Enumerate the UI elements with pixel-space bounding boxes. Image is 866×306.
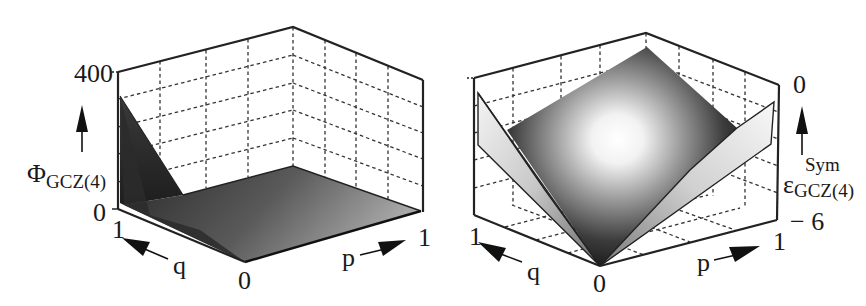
left-z-label-symbol: Φ xyxy=(27,159,46,188)
right-q-tick-end: 1 xyxy=(469,222,482,251)
right-q-label: q xyxy=(527,257,540,286)
left-plot: 400 0 ΦGCZ(4) 1 q 0 p 1 xyxy=(27,27,431,295)
right-z-label-symbol: ε xyxy=(783,170,794,199)
left-p-tick-end: 1 xyxy=(418,223,431,252)
left-p-arrow-icon xyxy=(360,240,406,256)
right-plot: 0 − 6 Sym εGCZ(4) 1 q 0 p 1 xyxy=(467,33,854,298)
left-q-label: q xyxy=(173,251,186,280)
right-z-tick-top: 0 xyxy=(793,70,806,99)
right-p-tick-end: 1 xyxy=(773,227,786,256)
right-p-label: p xyxy=(697,248,710,277)
left-p-label: p xyxy=(342,243,355,272)
right-q-arrow-icon xyxy=(478,242,522,262)
left-surface xyxy=(120,96,421,262)
left-q-arrow-icon xyxy=(122,238,168,259)
right-z-label-superscript: Sym xyxy=(805,154,840,175)
right-z-label-subscript: GCZ(4) xyxy=(794,180,854,202)
left-z-label-subscript: GCZ(4) xyxy=(46,171,106,193)
right-origin-tick: 0 xyxy=(593,269,606,298)
right-p-arrow-icon xyxy=(714,246,760,262)
left-z-tick-bottom: 0 xyxy=(93,198,106,227)
left-origin-tick: 0 xyxy=(238,266,251,295)
figure-canvas: 400 0 ΦGCZ(4) 1 q 0 p 1 xyxy=(0,0,866,306)
left-q-tick-end: 1 xyxy=(112,215,125,244)
right-z-tick-bottom: − 6 xyxy=(790,207,824,236)
right-z-arrow-icon xyxy=(796,106,808,155)
left-z-arrow-icon xyxy=(76,105,88,152)
left-z-tick-top: 400 xyxy=(74,59,113,88)
svg-text:ΦGCZ(4): ΦGCZ(4) xyxy=(27,159,106,193)
